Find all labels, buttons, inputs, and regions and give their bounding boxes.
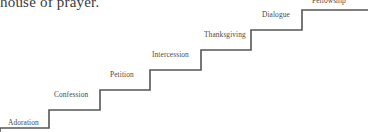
step-label-intercession: Intercession <box>152 50 189 59</box>
step-label-confession: Confession <box>54 90 88 99</box>
staircase-figure: house of prayer. Adoration Confession Pe… <box>0 0 368 132</box>
staircase-path <box>0 0 368 132</box>
stair-polyline <box>0 10 368 132</box>
step-label-fellowship: Fellowship <box>312 0 346 5</box>
step-label-petition: Petition <box>110 70 134 79</box>
step-label-adoration: Adoration <box>8 118 39 127</box>
step-label-dialogue: Dialogue <box>262 10 290 19</box>
step-label-thanksgiving: Thanksgiving <box>204 30 246 39</box>
